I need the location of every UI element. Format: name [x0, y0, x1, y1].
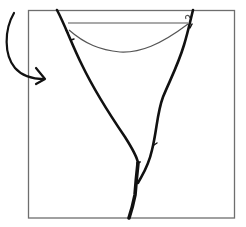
forked-branch [57, 10, 193, 218]
curved-arrow-icon [7, 13, 45, 84]
illustration: Hand-drawn Y-shaped forked branch with a… [0, 0, 246, 227]
drawing [0, 0, 246, 227]
frame [29, 11, 235, 219]
string [68, 15, 190, 52]
